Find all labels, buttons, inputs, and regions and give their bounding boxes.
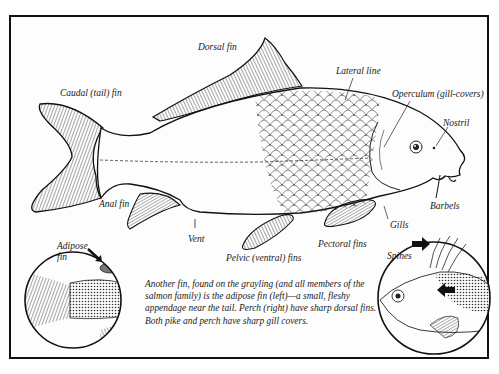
figure-caption: Another fin, found on the grayling (and … bbox=[145, 278, 390, 327]
label-adipose-fin-line2: fin bbox=[57, 252, 67, 263]
label-barbels: Barbels bbox=[430, 201, 460, 212]
label-spines: Spines bbox=[387, 251, 412, 262]
label-caudal-fin: Caudal (tail) fin bbox=[60, 88, 122, 99]
label-pectoral-fins: Pectoral fins bbox=[318, 239, 367, 250]
label-operculum: Operculum (gill-covers) bbox=[392, 89, 484, 100]
label-dorsal-fin: Dorsal fin bbox=[198, 42, 237, 53]
caudal-fin bbox=[32, 104, 103, 213]
label-lateral-line: Lateral line bbox=[336, 66, 381, 77]
grayling-tail-inset bbox=[25, 249, 125, 350]
pelvic-fin bbox=[243, 215, 294, 250]
label-anal-fin: Anal fin bbox=[99, 199, 129, 210]
label-nostril: Nostril bbox=[443, 118, 469, 129]
label-vent: Vent bbox=[188, 234, 204, 245]
label-pelvic-fins: Pelvic (ventral) fins bbox=[226, 253, 301, 264]
label-adipose-fin-line1: Adipose bbox=[57, 241, 88, 252]
anal-fin bbox=[128, 193, 181, 229]
label-gills: Gills bbox=[390, 220, 408, 231]
